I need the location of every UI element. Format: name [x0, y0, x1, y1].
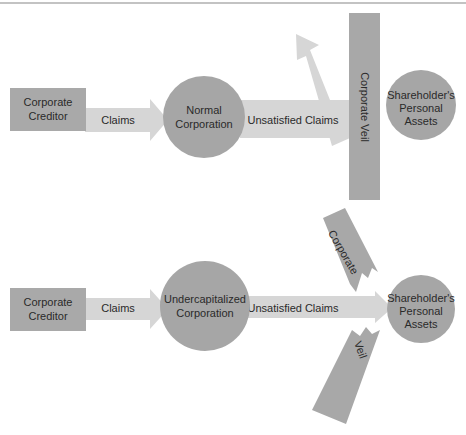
corporate-veil-label: Corporate Veil [359, 72, 371, 142]
assets-bottom-label-line2: Personal [399, 305, 442, 317]
creditor-label-line1: Corporate [24, 96, 73, 108]
assets-label-line2: Personal [399, 102, 442, 114]
assets-bottom-label-line3: Assets [404, 318, 438, 330]
undercapitalized-corporation-diagram: Corporate Veil Claims Unsatisfied Claims… [10, 208, 455, 424]
torn-veil-top-piece [323, 208, 378, 292]
claims-arrow-bottom-label: Claims [101, 302, 135, 314]
assets-bottom-label-line1: Shareholder's [387, 292, 455, 304]
unsatisfied-claims-bottom-label: Unsatisfied Claims [247, 302, 339, 314]
claims-arrow-label: Claims [101, 114, 135, 126]
undercap-label-line1: Undercapitalized [164, 293, 246, 305]
corporation-label-line1: Normal [186, 104, 221, 116]
corporation-label-line2: Corporation [175, 118, 232, 130]
creditor-label-line2: Creditor [28, 110, 67, 122]
undercapitalized-corporation-circle [160, 261, 250, 351]
creditor-bottom-label-line1: Corporate [24, 296, 73, 308]
torn-veil-bottom-piece [312, 327, 380, 424]
assets-label-line1: Shareholder's [387, 89, 455, 101]
creditor-bottom-label-line2: Creditor [28, 310, 67, 322]
undercap-label-line2: Corporation [176, 307, 233, 319]
unsatisfied-claims-label: Unsatisfied Claims [247, 114, 339, 126]
corporate-veil-diagram: Claims Unsatisfied Claims Corporate Cred… [0, 0, 466, 435]
normal-corporation-circle [163, 76, 245, 158]
normal-corporation-diagram: Claims Unsatisfied Claims Corporate Cred… [10, 13, 456, 200]
assets-label-line3: Assets [404, 115, 438, 127]
